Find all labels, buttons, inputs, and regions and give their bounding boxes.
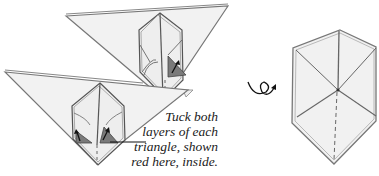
instruction-caption: Tuck both layers of each triangle, shown… (98, 109, 218, 169)
turn-over-icon (248, 82, 276, 94)
result-model (292, 30, 376, 164)
result-hex-outline (292, 30, 376, 164)
caption-line-1: Tuck both (98, 109, 218, 124)
origami-step-diagram: Tuck both layers of each triangle, shown… (0, 0, 379, 176)
caption-line-3: triangle, shown (98, 139, 218, 154)
caption-line-4: red here, inside. (98, 154, 218, 169)
caption-line-2: layers of each (98, 124, 218, 139)
